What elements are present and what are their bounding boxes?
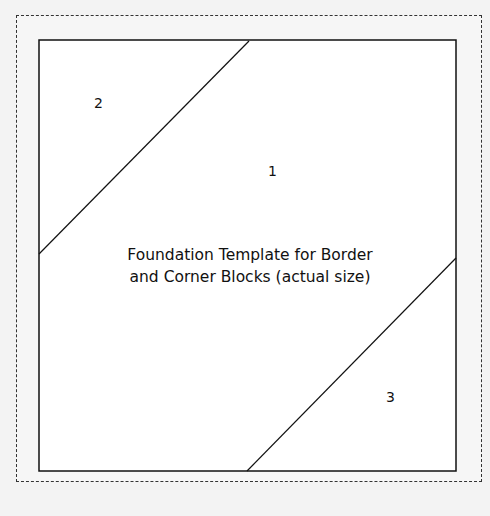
diagram-title: Foundation Template for Border and Corne… — [100, 244, 400, 288]
title-line-2: and Corner Blocks (actual size) — [100, 266, 400, 288]
section-label-1: 1 — [268, 163, 277, 179]
title-line-1: Foundation Template for Border — [100, 244, 400, 266]
section-label-3: 3 — [386, 389, 395, 405]
section-label-2: 2 — [94, 95, 103, 111]
